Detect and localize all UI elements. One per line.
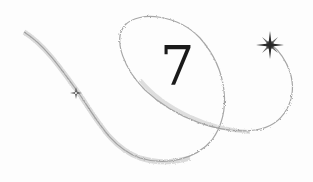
sparkle-star-icon xyxy=(256,31,284,59)
decorative-number-card: 7 xyxy=(0,0,313,182)
chapter-number: 7 xyxy=(160,40,194,94)
swirl-trail xyxy=(0,0,313,182)
